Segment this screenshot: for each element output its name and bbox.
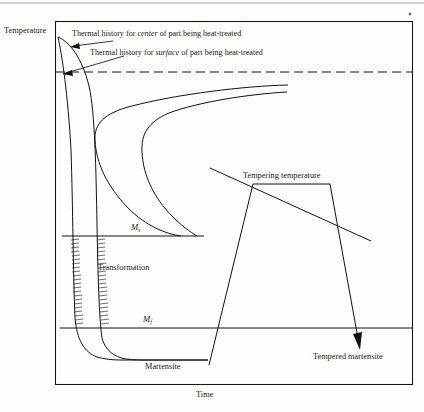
y-axis-label: Temperature [4, 26, 46, 35]
center-annotation-text: Thermal history for center of part being… [72, 29, 241, 38]
center-annotation-leader [74, 41, 113, 46]
ms-label-subscript: s [138, 227, 140, 233]
surface-annotation-text: Thermal history for surface of part bein… [90, 48, 263, 57]
tempering-arrow-head-icon [353, 332, 362, 350]
scan-artifact-dot [409, 13, 412, 16]
center-annotation-emphasis: center [137, 29, 158, 38]
center-annotation-suffix: of part being heat-treated [158, 29, 242, 38]
surface-annotation-suffix: of part being heat-treated [179, 48, 263, 57]
surface-annotation-leader [66, 56, 124, 73]
tempering-temperature-label: Tempering temperature [243, 171, 321, 180]
thermal-history-center-curve [58, 37, 208, 360]
transformation-finish-curve [142, 92, 287, 236]
martensite-label: Martensite [145, 362, 181, 371]
ttt-diagram-figure: Temperature Time Thermal history for cen… [0, 0, 424, 412]
x-axis-label: Time [196, 390, 214, 399]
ms-label: Ms [130, 222, 140, 233]
center-annotation-prefix: Thermal history for [72, 29, 137, 38]
tempering-cycle-path [209, 184, 359, 365]
transformation-start-curve [95, 85, 288, 236]
plot-frame [56, 22, 413, 385]
diagram-canvas: Temperature Time Thermal history for cen… [0, 0, 424, 412]
transformation-region-label: Transformation [98, 263, 150, 272]
tempered-martensite-label: Tempered martensite [313, 352, 383, 361]
surface-annotation-prefix: Thermal history for [90, 48, 155, 57]
thermal-history-surface-curve [58, 37, 208, 360]
mf-label-subscript: f [150, 319, 153, 325]
surface-curve-hatching [71, 239, 83, 324]
mf-label: Mf [142, 314, 153, 325]
surface-annotation-emphasis: surface [155, 48, 179, 57]
